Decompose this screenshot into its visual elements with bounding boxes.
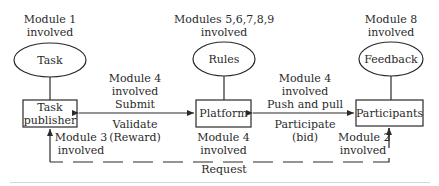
edge-line: Submit bbox=[100, 98, 170, 111]
platform-label: Platform bbox=[196, 100, 251, 127]
label-line: Task bbox=[37, 101, 62, 114]
note-line: involved bbox=[174, 26, 274, 39]
note-line: Module 2 bbox=[338, 131, 388, 144]
note-line: Module 1 bbox=[20, 13, 80, 26]
publisher-platform-below: Validate (Reward) bbox=[100, 118, 170, 144]
task-label: Task bbox=[14, 50, 86, 70]
note-line: Modules 5,6,7,8,9 bbox=[174, 13, 274, 26]
feedback-module-note: Module 8 involved bbox=[361, 13, 421, 39]
platform-participants-below: Participate (bid) bbox=[270, 118, 340, 144]
participants-module-note: Module 2 involved bbox=[338, 131, 388, 157]
rules-module-note: Modules 5,6,7,8,9 involved bbox=[174, 13, 274, 39]
publisher-platform-above: Module 4 involved Submit bbox=[100, 72, 170, 111]
platform-module-note: Module 4 involved bbox=[196, 131, 251, 157]
note-line: Module 4 bbox=[196, 131, 251, 144]
edge-line: involved bbox=[262, 85, 348, 98]
rules-label: Rules bbox=[193, 49, 255, 69]
participants-label: Participants bbox=[356, 100, 423, 126]
edge-line: involved bbox=[100, 85, 170, 98]
platform-participants-above: Module 4 involved Push and pull bbox=[262, 72, 348, 111]
note-line: involved bbox=[20, 26, 80, 39]
note-line: involved bbox=[54, 144, 108, 157]
label-line: publisher bbox=[24, 114, 77, 127]
edge-line: Validate bbox=[100, 118, 170, 131]
request-label: Request bbox=[194, 163, 254, 176]
task-publisher-module-note: Module 3 involved bbox=[54, 131, 108, 157]
edge-line: Push and pull bbox=[262, 98, 348, 111]
edge-line: Module 4 bbox=[100, 72, 170, 85]
note-line: Module 3 bbox=[54, 131, 108, 144]
edge-line: (Reward) bbox=[100, 131, 170, 144]
edge-line: (bid) bbox=[270, 131, 340, 144]
diagram-canvas: Module 1 involved Modules 5,6,7,8,9 invo… bbox=[0, 0, 439, 186]
note-line: involved bbox=[196, 144, 251, 157]
bottom-divider bbox=[10, 182, 430, 183]
note-line: involved bbox=[338, 144, 388, 157]
edge-line: Participate bbox=[270, 118, 340, 131]
edge-line: Module 4 bbox=[262, 72, 348, 85]
note-line: involved bbox=[361, 26, 421, 39]
note-line: Module 8 bbox=[361, 13, 421, 26]
feedback-label: Feedback bbox=[359, 49, 423, 69]
task-module-note: Module 1 involved bbox=[20, 13, 80, 39]
task-publisher-label: Task publisher bbox=[23, 100, 77, 127]
